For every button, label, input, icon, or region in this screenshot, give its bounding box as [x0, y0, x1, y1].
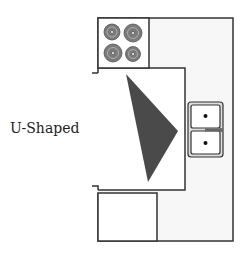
work-triangle [126, 74, 178, 182]
faucet-icon [205, 129, 221, 132]
layout-label: U-Shaped [10, 120, 79, 136]
drain-icon [204, 141, 208, 145]
wall-jut-bottom [92, 186, 98, 190]
sink [188, 102, 223, 157]
drain-icon [204, 114, 208, 118]
stove [98, 18, 149, 68]
counter-bottom-block [98, 193, 157, 241]
